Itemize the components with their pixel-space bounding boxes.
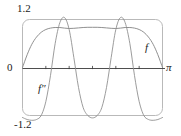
y-axis-min-label: -1.2	[14, 119, 31, 130]
x-axis-max-label: π	[166, 62, 172, 73]
figure-canvas: 1.2 -1.2 0 π f f″	[0, 0, 181, 136]
plot-svg	[0, 0, 181, 136]
x-axis	[23, 66, 166, 69]
curve-f	[23, 27, 163, 67]
curve-label-f: f	[145, 42, 148, 53]
origin-label: 0	[7, 62, 13, 73]
y-axis-max-label: 1.2	[17, 3, 31, 14]
curve-label-f-double-prime: f″	[38, 83, 46, 94]
